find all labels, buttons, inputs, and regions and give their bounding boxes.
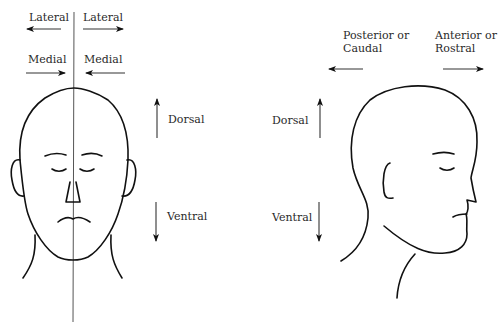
label-posterior-line1: Posterior or bbox=[343, 30, 409, 42]
right-eye bbox=[80, 169, 94, 171]
mouth bbox=[58, 218, 90, 222]
label-lateral-left: Lateral bbox=[29, 12, 69, 24]
side-ear bbox=[383, 163, 393, 198]
neck-left bbox=[23, 235, 35, 278]
label-medial-left: Medial bbox=[28, 54, 66, 66]
left-brow bbox=[45, 154, 66, 156]
anatomical-directions-figure: Lateral Lateral Medial Medial Dorsal Ven… bbox=[0, 0, 500, 333]
side-neck bbox=[397, 254, 415, 298]
side-mouth bbox=[453, 214, 467, 217]
side-head-outline bbox=[341, 86, 477, 261]
neck-right bbox=[111, 235, 122, 278]
left-eye bbox=[52, 169, 66, 171]
label-anterior-line1: Anterior or bbox=[435, 30, 497, 42]
label-posterior-line2: Caudal bbox=[343, 43, 382, 55]
midline bbox=[73, 12, 74, 322]
side-brow bbox=[433, 153, 454, 155]
label-anterior-line2: Rostral bbox=[435, 43, 475, 55]
side-view bbox=[319, 69, 483, 298]
label-front-dorsal: Dorsal bbox=[168, 114, 204, 126]
label-side-dorsal: Dorsal bbox=[272, 115, 308, 127]
label-side-ventral: Ventral bbox=[272, 212, 312, 224]
label-lateral-right: Lateral bbox=[83, 12, 123, 24]
label-medial-right: Medial bbox=[84, 54, 122, 66]
right-brow bbox=[82, 154, 102, 156]
figure-drawing bbox=[0, 0, 500, 333]
label-front-ventral: Ventral bbox=[167, 211, 207, 223]
side-eye bbox=[440, 168, 454, 170]
